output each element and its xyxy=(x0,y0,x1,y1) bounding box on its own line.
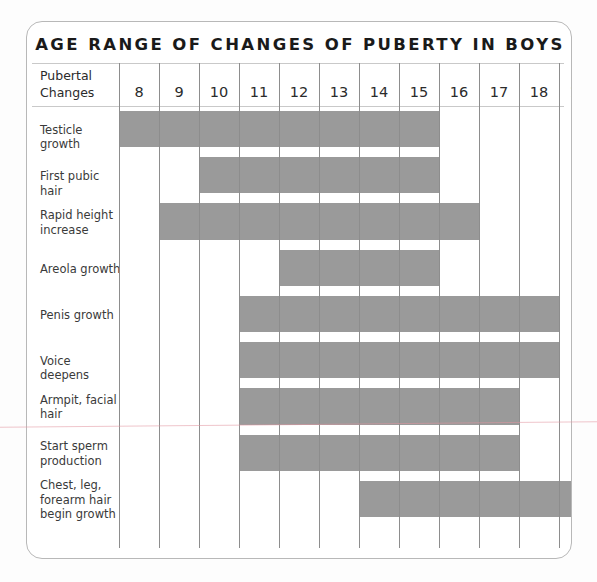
row-label-line: Voice deepens xyxy=(40,354,122,383)
column-header-age-19: 19 xyxy=(559,63,572,107)
chart-title: AGE RANGE OF CHANGES OF PUBERTY IN BOYS xyxy=(27,35,572,54)
column-header-age-9: 9 xyxy=(159,63,199,107)
chart-card: AGE RANGE OF CHANGES OF PUBERTY IN BOYS … xyxy=(26,21,572,559)
row-label-line: Armpit, facial xyxy=(40,393,122,408)
row-label-line: Penis growth xyxy=(40,308,122,323)
row-label-line: increase xyxy=(40,223,122,238)
chart-grid: Pubertal Changes Testicle growthFirst pu… xyxy=(32,63,564,548)
bar-8 xyxy=(239,435,519,471)
column-divider xyxy=(159,63,160,548)
row-label-6: Voice deepens xyxy=(40,354,122,383)
row-label-4: Areola growth xyxy=(40,262,122,277)
row-label-line: production xyxy=(40,454,122,469)
row-label-8: Start spermproduction xyxy=(40,439,122,468)
row-axis-header: Pubertal Changes xyxy=(40,67,118,101)
column-header-age-17: 17 xyxy=(479,63,519,107)
row-label-line: forearm hair xyxy=(40,493,122,508)
column-divider xyxy=(239,63,240,548)
column-divider xyxy=(439,63,440,548)
column-divider xyxy=(199,63,200,548)
column-header-age-15: 15 xyxy=(399,63,439,107)
row-label-7: Armpit, facialhair xyxy=(40,393,122,422)
column-header-age-8: 8 xyxy=(119,63,159,107)
column-header-age-11: 11 xyxy=(239,63,279,107)
row-label-line: begin growth xyxy=(40,507,122,522)
column-divider xyxy=(119,63,120,548)
row-label-line: hair xyxy=(40,407,122,422)
column-divider xyxy=(559,63,560,548)
column-header-age-18: 18 xyxy=(519,63,559,107)
column-divider xyxy=(479,63,480,548)
row-label-5: Penis growth xyxy=(40,308,122,323)
column-divider xyxy=(399,63,400,548)
column-divider xyxy=(519,63,520,548)
column-header-age-14: 14 xyxy=(359,63,399,107)
row-label-1: Testicle growth xyxy=(40,123,122,152)
row-label-2: First pubic hair xyxy=(40,169,122,198)
row-label-9: Chest, leg,forearm hairbegin growth xyxy=(40,478,122,522)
row-label-line: Chest, leg, xyxy=(40,478,122,493)
column-divider xyxy=(359,63,360,548)
column-header-age-10: 10 xyxy=(199,63,239,107)
row-label-line: Areola growth xyxy=(40,262,122,277)
row-label-line: Rapid height xyxy=(40,208,122,223)
column-divider xyxy=(279,63,280,548)
column-header-age-12: 12 xyxy=(279,63,319,107)
row-label-3: Rapid heightincrease xyxy=(40,208,122,237)
row-label-line: First pubic hair xyxy=(40,169,122,198)
row-axis-header-line2: Changes xyxy=(40,84,118,101)
bar-7 xyxy=(239,388,519,424)
column-divider xyxy=(319,63,320,548)
column-header-age-13: 13 xyxy=(319,63,359,107)
column-header-age-16: 16 xyxy=(439,63,479,107)
row-label-line: Testicle growth xyxy=(40,123,122,152)
row-label-line: Start sperm xyxy=(40,439,122,454)
bar-9 xyxy=(359,481,572,517)
row-axis-header-line1: Pubertal xyxy=(40,67,118,84)
